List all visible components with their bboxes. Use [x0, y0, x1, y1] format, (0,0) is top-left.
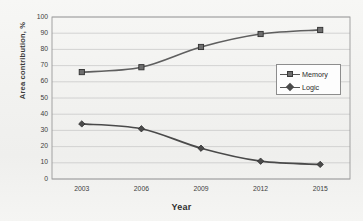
y-tick-value: 40 [22, 111, 48, 118]
data-point-marker [79, 121, 85, 127]
y-tick-value: 80 [22, 46, 48, 53]
data-point-marker [139, 65, 144, 70]
series-logic [79, 121, 324, 168]
x-tick-label: 2009 [181, 186, 221, 193]
x-tick-label: 2003 [62, 186, 102, 193]
y-tick-value: 90 [22, 30, 48, 37]
chart-legend: Memory Logic [276, 64, 341, 95]
x-tick-label: 2015 [300, 186, 340, 193]
y-tick-value: 60 [22, 78, 48, 85]
square-marker-icon [280, 69, 300, 79]
x-tick-label: 2012 [241, 186, 281, 193]
data-point-marker [318, 27, 323, 32]
diamond-marker-icon [280, 82, 300, 92]
legend-entry-memory: Memory [280, 68, 328, 80]
data-point-marker [198, 44, 203, 49]
legend-label-logic: Logic [302, 83, 319, 92]
y-tick-value: 20 [22, 143, 48, 150]
data-point-marker [317, 161, 323, 167]
y-tick-value: 70 [22, 62, 48, 69]
y-tick-value: 100 [22, 14, 48, 21]
x-tick-label: 2006 [121, 186, 161, 193]
legend-label-memory: Memory [302, 70, 328, 79]
y-tick-value: 10 [22, 159, 48, 166]
x-axis-title: Year [0, 202, 363, 212]
series-line [82, 124, 320, 165]
data-point-marker [198, 145, 204, 151]
y-tick-value: 30 [22, 127, 48, 134]
data-point-marker [138, 126, 144, 132]
data-point-marker [257, 158, 263, 164]
data-point-marker [258, 31, 263, 36]
data-point-marker [79, 69, 84, 74]
y-tick-value: 50 [22, 95, 48, 102]
legend-entry-logic: Logic [280, 81, 319, 93]
y-tick-value: 0 [22, 176, 48, 183]
